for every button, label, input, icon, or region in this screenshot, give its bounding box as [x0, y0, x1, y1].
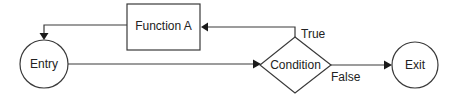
edge-function-a-to-entry: [40, 25, 128, 40]
flowchart-canvas: Function A Entry Condition Exit True Fal…: [0, 0, 450, 99]
node-condition-label: Condition: [270, 58, 321, 72]
node-entry-label: Entry: [30, 57, 58, 71]
node-condition: Condition: [260, 37, 331, 93]
arrow-down-icon: [40, 33, 49, 40]
edge-condition-to-exit: [331, 61, 392, 70]
edge-entry-to-condition: [68, 60, 261, 69]
edge-label-false: False: [331, 70, 361, 84]
node-exit: Exit: [392, 42, 438, 88]
arrow-right-icon: [253, 60, 261, 69]
arrow-left-icon: [201, 23, 208, 32]
node-entry: Entry: [20, 40, 68, 88]
node-exit-label: Exit: [405, 58, 426, 72]
arrow-right-icon: [384, 61, 392, 70]
node-function-a-label: Function A: [135, 19, 192, 33]
edge-label-true: True: [301, 27, 326, 41]
node-function-a: Function A: [127, 4, 200, 50]
edge-condition-to-function-a: [201, 23, 295, 38]
